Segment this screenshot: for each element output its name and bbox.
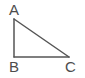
geometry-figure: A B C <box>0 0 85 78</box>
vertex-label-b: B <box>9 59 19 74</box>
vertex-label-a: A <box>9 2 19 17</box>
vertex-label-c: C <box>65 59 76 74</box>
triangle-side-ac <box>14 19 69 57</box>
